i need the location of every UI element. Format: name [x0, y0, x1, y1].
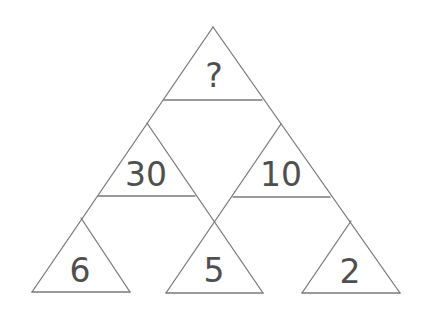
middle-right-triangle-label: 10: [260, 155, 302, 194]
outer-left-edge: [32, 27, 213, 292]
middle-left-triangle-label: 30: [125, 155, 167, 194]
outer-right-edge: [213, 27, 400, 293]
bottom-right-triangle-label: 2: [340, 252, 361, 291]
triangle-puzzle-diagram: ? 30 10 6 5 2: [0, 0, 424, 316]
bottom-middle-triangle-label: 5: [204, 251, 225, 290]
top-triangle-label: ?: [205, 56, 223, 95]
bottom-left-triangle-label: 6: [70, 251, 91, 290]
